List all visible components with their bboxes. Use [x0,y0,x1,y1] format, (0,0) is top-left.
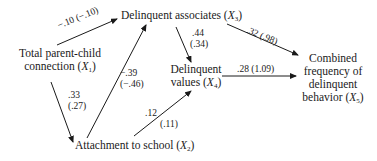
coef-x3-x4: .44 (.34) [190,28,208,50]
node-x5-line2: frequency of [298,65,368,78]
node-x5-line4: behavior (X5) [298,91,368,108]
node-x2-line1: Attachment to school (X2) [75,139,194,156]
node-x1-parent-child-connection: Total parent-child connection (X1) [18,47,102,77]
coef-x2-x3: −.39 (−.46) [120,68,144,90]
coef-x2-x4: .12 (.11) [145,108,178,130]
node-x2-attachment-to-school: Attachment to school (X2) [75,139,194,156]
node-x5-line3: delinquent [298,78,368,91]
node-x5-combined-delinquent-behavior: Combined frequency of delinquent behavio… [298,52,368,108]
arrow-x3-to-x4 [176,27,191,62]
node-x5-line1: Combined [298,52,368,65]
node-x3-delinquent-associates: Delinquent associates (X3) [121,9,242,26]
coef-x1-x2: .33 (.27) [68,90,86,112]
node-x4-line1: Delinquent [168,63,224,76]
node-x3-line1: Delinquent associates (X3) [121,9,242,26]
node-x1-line2: connection (X1) [18,60,102,77]
node-x4-delinquent-values: Delinquent values (X4) [168,63,224,93]
node-x4-line2: values (X4) [168,76,224,93]
coef-x4-x5: .28 (1.09) [237,64,274,75]
node-x1-line1: Total parent-child [18,47,102,60]
